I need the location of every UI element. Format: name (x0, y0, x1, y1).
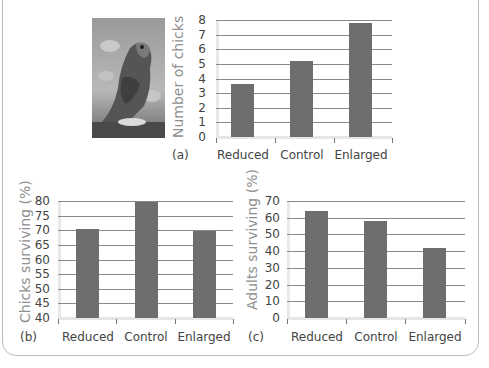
bar-enlarged-c (423, 248, 446, 318)
kestrel-photo (92, 18, 165, 138)
bar-control-a (290, 61, 313, 138)
panel-label-c: (c) (248, 330, 264, 344)
panel-label-a: (a) (172, 148, 189, 162)
bar-control-b (135, 202, 158, 319)
plot-area-c (287, 201, 465, 318)
bar-reduced-b (76, 229, 99, 318)
bar-control-c (364, 221, 387, 318)
bar-reduced-c (305, 211, 328, 318)
bar-reduced-a (231, 84, 254, 137)
panel-label-b: (b) (20, 330, 37, 344)
bar-enlarged-a (349, 23, 372, 137)
plot-area-a (216, 20, 392, 137)
bar-enlarged-b (193, 231, 216, 318)
plot-area-b (58, 201, 233, 318)
